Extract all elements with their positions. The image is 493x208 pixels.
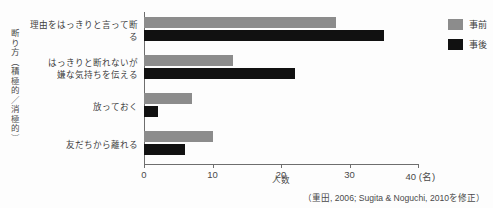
bar-group: [144, 126, 418, 164]
bar-chart: 断り方（積極的／消極的） 010203040 (名) 理由をはっきりと言って断る…: [0, 0, 493, 208]
bar-事前-2: [144, 93, 192, 104]
category-label-line: はっきりと断れないが: [48, 57, 138, 69]
bar-row: はっきりと断れないが嫌な気持ちを伝える: [0, 50, 418, 88]
category-label: 理由をはっきりと言って断る: [22, 12, 138, 50]
bar-事前-1: [144, 55, 233, 66]
x-tick-mark-10: [213, 164, 214, 168]
plot-area: 010203040 (名) 理由をはっきりと言って断るはっきりと断れないが嫌な気…: [144, 12, 418, 164]
x-tick-mark-40: [418, 164, 419, 168]
legend-label: 事後: [469, 38, 487, 51]
x-tick-mark-20: [281, 164, 282, 168]
legend-label: 事前: [469, 18, 487, 31]
legend-item: 事後: [448, 38, 487, 51]
category-label-line: 理由をはっきりと言って断る: [22, 19, 138, 44]
source-citation: （重田, 2006; Sugita & Noguchi, 2010を修正）: [303, 191, 485, 203]
bar-row: 友だちから離れる: [0, 126, 418, 164]
bar-事後-2: [144, 106, 158, 117]
bar-事前-0: [144, 17, 336, 28]
x-tick-mark-30: [350, 164, 351, 168]
category-label: 放っておく: [22, 88, 138, 126]
bar-row: 放っておく: [0, 88, 418, 126]
bar-group: [144, 12, 418, 50]
category-label: はっきりと断れないが嫌な気持ちを伝える: [22, 50, 138, 88]
bar-group: [144, 88, 418, 126]
bar-事後-0: [144, 30, 384, 41]
bar-事前-3: [144, 131, 213, 142]
x-axis-title: 人数: [144, 173, 418, 185]
bar-group: [144, 50, 418, 88]
chart-legend: 事前事後: [448, 18, 487, 51]
legend-item: 事前: [448, 18, 487, 31]
category-label-line: 友だちから離れる: [66, 139, 138, 151]
bar-事後-1: [144, 68, 295, 79]
x-tick-mark-0: [144, 164, 145, 168]
category-label-line: 放っておく: [93, 101, 138, 113]
category-label-line: 嫌な気持ちを伝える: [48, 69, 138, 81]
legend-swatch: [448, 39, 463, 50]
legend-swatch: [448, 19, 463, 30]
category-label: 友だちから離れる: [22, 126, 138, 164]
bar-事後-3: [144, 144, 185, 155]
bar-row: 理由をはっきりと言って断る: [0, 12, 418, 50]
